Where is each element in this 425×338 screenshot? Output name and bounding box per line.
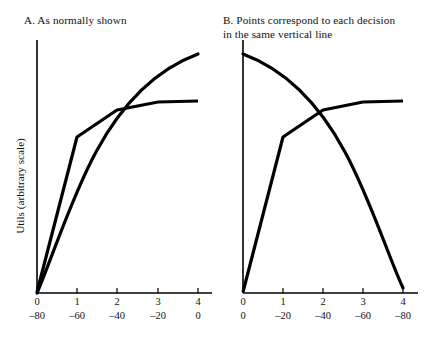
panel-b-series-piecewise [243,101,403,292]
panel-b-xtick-4: 4 [388,296,418,307]
panel-a-xtick2-0: –80 [22,310,52,321]
panel-a-xtick-1: 1 [62,296,92,307]
panel-a-xtick-4: 4 [183,296,213,307]
panel-a-xtick-0: 0 [22,296,52,307]
panel-b-xtick-1: 1 [268,296,298,307]
panel-b-xtick2-0: 0 [228,310,258,321]
panel-a-series-piecewise [37,101,198,292]
panel-a: A. As normally shown Utils (arbitrary sc… [0,0,212,338]
panel-a-xtick2-3: –20 [143,310,173,321]
panel-a-series-smooth [37,54,198,293]
panel-b-xtick-2: 2 [308,296,338,307]
panel-b-xtick2-2: –40 [308,310,338,321]
panel-a-xtick2-2: –40 [102,310,132,321]
panel-a-xtick-2: 2 [102,296,132,307]
panel-b-xtick-3: 3 [348,296,378,307]
panel-a-plot [0,0,212,338]
panel-a-xtick2-4: 0 [183,310,213,321]
panel-b: B. Points correspond to each decision in… [213,0,425,338]
panel-a-xtick-3: 3 [143,296,173,307]
panel-b-plot [213,0,425,338]
figure-root: A. As normally shown Utils (arbitrary sc… [0,0,425,338]
panel-b-series-smooth [243,54,403,288]
panel-b-xtick2-3: –60 [348,310,378,321]
panel-b-xtick2-4: –80 [388,310,418,321]
panel-b-xtick-0: 0 [228,296,258,307]
panel-a-xtick2-1: –60 [62,310,92,321]
panel-b-xtick2-1: –20 [268,310,298,321]
